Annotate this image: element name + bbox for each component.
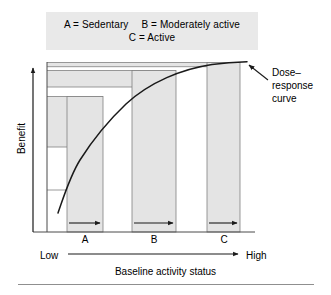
activity-bar-c bbox=[207, 63, 240, 233]
dose-response-annotation: Dose– response curve bbox=[272, 66, 313, 105]
category-label-c: C bbox=[209, 234, 239, 245]
annotation-line-3: curve bbox=[272, 92, 313, 105]
annotation-line-1: Dose– bbox=[272, 66, 313, 79]
annotation-line-2: response bbox=[272, 79, 313, 92]
x-axis-high-label: High bbox=[246, 250, 267, 261]
activity-bar-a bbox=[67, 97, 103, 233]
dose-response-figure: A = SedentaryB = Moderately active C = A… bbox=[0, 0, 331, 295]
annotation-arrow bbox=[249, 65, 268, 80]
category-label-a: A bbox=[70, 234, 100, 245]
x-axis-title: Baseline activity status bbox=[0, 266, 331, 277]
activity-bars bbox=[67, 63, 240, 233]
activity-bar-b bbox=[132, 71, 176, 233]
y-axis-title: Benefit bbox=[16, 109, 27, 169]
figure-bottom-rule bbox=[18, 284, 314, 285]
x-axis-low-label: Low bbox=[40, 250, 58, 261]
category-label-b: B bbox=[139, 234, 169, 245]
